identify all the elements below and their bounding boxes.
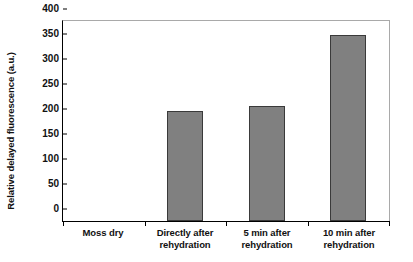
bar — [330, 35, 366, 222]
y-axis-tick-label: 100 — [42, 153, 63, 165]
bar-slot — [226, 21, 308, 221]
x-axis-category-label: Moss dry — [62, 227, 144, 251]
y-axis-tick: 250 — [42, 78, 63, 90]
bar — [249, 106, 285, 222]
x-axis-category-label: 10 min after rehydration — [308, 227, 390, 251]
y-axis-tick-mark — [63, 209, 67, 210]
x-axis-category-label: 5 min after rehydration — [226, 227, 308, 251]
y-axis-tick-label: 200 — [42, 103, 63, 115]
y-axis-tick-mark — [63, 34, 67, 35]
y-axis-tick-mark — [63, 134, 67, 135]
y-axis-tick-label: 250 — [42, 78, 63, 90]
bar-slot — [145, 21, 227, 221]
y-axis-tick-label: 350 — [42, 28, 63, 40]
y-axis-tick: 350 — [42, 28, 63, 40]
y-axis-tick-mark — [63, 59, 67, 60]
bar-slot — [63, 21, 145, 221]
x-axis-tick-mark — [226, 221, 227, 226]
y-axis-tick: 300 — [42, 53, 63, 65]
y-axis-tick-label: 150 — [42, 128, 63, 140]
y-axis-tick: 0 — [53, 203, 63, 215]
y-axis-title: Relative delayed fluorescence (a.u.) — [0, 0, 20, 262]
y-axis-tick-mark — [63, 84, 67, 85]
y-axis-tick-mark — [63, 109, 67, 110]
y-axis-tick-mark — [63, 9, 67, 10]
y-axis-tick: 150 — [42, 128, 63, 140]
y-axis-tick-label: 0 — [53, 203, 63, 215]
y-axis-tick: 400 — [42, 3, 63, 15]
bar-chart: Relative delayed fluorescence (a.u.) 050… — [0, 0, 413, 262]
x-axis-category-labels: Moss dryDirectly after rehydration5 min … — [62, 227, 390, 251]
bar — [167, 111, 203, 221]
x-axis-tick-mark — [308, 221, 309, 226]
x-axis-tick-mark — [145, 221, 146, 226]
bar-slot — [308, 21, 390, 221]
y-axis-tick-label: 300 — [42, 53, 63, 65]
x-axis-tick-mark — [389, 221, 390, 226]
y-axis-tick-label: 400 — [42, 3, 63, 15]
x-axis-category-label: Directly after rehydration — [144, 227, 226, 251]
y-axis-tick: 50 — [48, 178, 63, 190]
y-axis-tick: 200 — [42, 103, 63, 115]
y-axis-tick-label: 50 — [48, 178, 63, 190]
plot-area: 050100150200250300350400 — [62, 20, 390, 222]
y-axis-tick: 100 — [42, 153, 63, 165]
y-axis-tick-mark — [63, 159, 67, 160]
x-axis-tick-mark — [63, 221, 64, 226]
y-axis-tick-mark — [63, 184, 67, 185]
bars-layer — [63, 21, 389, 221]
